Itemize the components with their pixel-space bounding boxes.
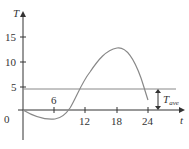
y-axis-label: T bbox=[13, 7, 20, 19]
y-tick-label-15: 15 bbox=[5, 31, 17, 43]
x-tick-label-24: 24 bbox=[142, 115, 154, 127]
x-axis-label: t bbox=[180, 114, 184, 126]
x-tick-label-12: 12 bbox=[79, 115, 90, 127]
y-tick-label-10: 10 bbox=[5, 56, 17, 68]
x-tick-label-18: 18 bbox=[111, 115, 123, 127]
tave-arrow-up-icon bbox=[155, 89, 161, 93]
tave-label: Tave bbox=[163, 93, 179, 107]
tave-label-sub: ave bbox=[169, 99, 179, 107]
x-tick-label-6: 6 bbox=[51, 94, 57, 106]
chart-canvas: T t 0 15 10 5 6 12 18 24 Tave bbox=[0, 0, 189, 149]
y-tick-label-5: 5 bbox=[11, 81, 17, 93]
origin-label: 0 bbox=[4, 113, 10, 125]
tave-arrow-down-icon bbox=[155, 106, 161, 110]
